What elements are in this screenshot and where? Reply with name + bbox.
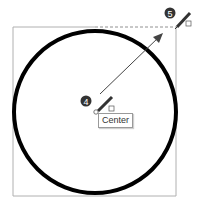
sketch-canvas: 4 5 bbox=[0, 0, 198, 204]
center-tooltip: Center bbox=[98, 113, 133, 128]
step-number-5: 5 bbox=[167, 9, 172, 19]
pencil-cursor-icon bbox=[175, 13, 191, 29]
radius-arrow-line bbox=[100, 36, 160, 94]
step-number-4: 4 bbox=[83, 97, 88, 107]
pencil-cursor-icon bbox=[96, 97, 114, 113]
